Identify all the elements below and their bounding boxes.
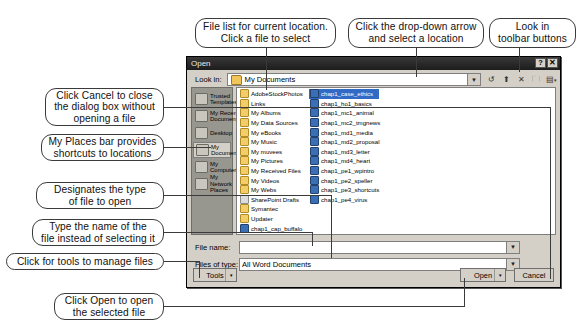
folder-icon (231, 75, 242, 85)
word-icon (310, 108, 319, 117)
open-dialog: Open ? ✕ Look in: My Documents ▼ ↺ ⬆ ✕ 🗀… (186, 56, 561, 288)
file-list-item-label: My Data Sources (251, 119, 298, 126)
file-list-item[interactable]: My Webs (239, 185, 309, 195)
folder-icon (240, 185, 249, 194)
word-icon (310, 128, 319, 137)
leader-dropdown (416, 48, 417, 77)
place-item-label: My Network Places (210, 174, 232, 193)
look-in-row: Look in: My Documents ▼ ↺ ⬆ ✕ 🗀 ▤▾ (187, 70, 560, 87)
close-icon[interactable]: ✕ (547, 58, 558, 68)
word-icon (310, 185, 319, 194)
dialog-body: Trusted TemplatesMy Recent DocumentsDesk… (187, 87, 560, 235)
callout-open: Click Open to open the selected file (54, 293, 164, 320)
file-name-input[interactable]: ▼ (239, 241, 520, 254)
file-list-item[interactable]: Updater (239, 214, 309, 224)
file-list-item[interactable]: chap1_mc2_tmgnews (309, 118, 379, 128)
place-item-4[interactable]: My Computer (193, 159, 231, 175)
tools-button-label: Tools (206, 271, 223, 280)
file-list-item[interactable]: My eBooks (239, 127, 309, 137)
chevron-down-icon[interactable]: ▾ (494, 269, 505, 281)
leader-cancel-h (163, 107, 551, 108)
leader-places-h (163, 147, 211, 148)
file-list-item[interactable]: chap1_case_ethics (309, 89, 379, 99)
file-list-item[interactable]: chap1_pe1_wpintro (309, 166, 379, 176)
file-list-item[interactable]: My Albums (239, 108, 309, 118)
file-list-item-label: Symantec (251, 205, 278, 212)
delete-icon[interactable]: ✕ (515, 74, 527, 86)
network-places-icon (195, 178, 208, 190)
file-list-item[interactable]: My Videos (239, 175, 309, 185)
chevron-down-icon[interactable]: ▼ (467, 74, 480, 85)
help-icon[interactable]: ? (535, 58, 546, 68)
callout-file-list: File list for current location. Click a … (195, 18, 336, 48)
place-item-2[interactable]: Desktop (193, 125, 231, 141)
callout-dropdown: Click the drop-down arrow and select a l… (348, 18, 484, 48)
file-list-item-label: chap1_cap_buffalo (251, 225, 302, 232)
file-list-item[interactable]: My muvees (239, 147, 309, 157)
look-in-combo[interactable]: My Documents ▼ (227, 73, 481, 86)
file-list-item[interactable]: AdobeStockPhotos (239, 89, 309, 99)
file-name-row: File name: ▼ (191, 240, 556, 254)
my-places-bar: Trusted TemplatesMy Recent DocumentsDesk… (191, 87, 233, 235)
callout-filename: Type the name of the file instead of sel… (32, 219, 164, 246)
file-list-item[interactable]: My Pictures (239, 156, 309, 166)
word-icon (310, 156, 319, 165)
callout-tools: Click for tools to manage files (6, 253, 164, 270)
file-list-item-label: My Videos (251, 177, 279, 184)
file-list-item-label: chap1_pe4_virus (321, 196, 367, 203)
file-list-item-label: chap1_md3_letter (321, 148, 370, 155)
open-button[interactable]: Open ▾ (460, 268, 506, 282)
dialog-fields: File name: ▼ Files of type: All Word Doc… (187, 235, 560, 271)
leader-filename-h (163, 232, 312, 233)
word-icon (310, 118, 319, 127)
up-one-level-icon[interactable]: ⬆ (500, 74, 512, 86)
word-icon (310, 147, 319, 156)
folder-icon (240, 204, 249, 213)
file-list-item[interactable]: chap1_md2_proposal (309, 137, 379, 147)
leader-tools-h (163, 261, 199, 262)
file-list-item[interactable]: My Music (239, 137, 309, 147)
trusted-templates-icon (195, 93, 208, 105)
cancel-button[interactable]: Cancel (514, 268, 554, 282)
file-list-item-label: Links (251, 100, 265, 107)
file-list-item[interactable]: Symantec (239, 204, 309, 214)
place-item-5[interactable]: My Network Places (193, 176, 231, 192)
place-item-1[interactable]: My Recent Documents (193, 108, 231, 124)
leader-filetype-h (163, 195, 331, 196)
leader-file-list (266, 48, 267, 90)
file-list-item-label: My Webs (251, 186, 276, 193)
callout-toolbar: Look in toolbar buttons (489, 18, 576, 48)
file-list[interactable]: AdobeStockPhotosLinksMy AlbumsMy Data So… (236, 87, 556, 235)
place-item-3[interactable]: My Documents (193, 142, 231, 158)
file-list-item-label: My Received Files (251, 167, 301, 174)
file-list-item[interactable]: chap1_md1_media (309, 127, 379, 137)
chevron-down-icon[interactable]: ▼ (506, 242, 519, 253)
folder-icon (240, 137, 249, 146)
leader-open-h (163, 306, 465, 307)
leader-toolbar (519, 48, 520, 72)
back-icon[interactable]: ↺ (485, 74, 497, 86)
file-list-item[interactable]: chap1_mc1_animal (309, 108, 379, 118)
sharepoint-icon (240, 195, 249, 204)
folder-icon (240, 128, 249, 137)
views-icon[interactable]: ▤▾ (545, 74, 557, 86)
file-list-item-label: chap1_pe3_shortcuts (321, 186, 379, 193)
file-list-item-label: My Music (251, 138, 277, 145)
word-icon (310, 166, 319, 175)
file-list-item[interactable]: My Data Sources (239, 118, 309, 128)
dialog-toolbar: ↺ ⬆ ✕ 🗀 ▤▾ (485, 74, 557, 86)
file-list-item[interactable]: chap1_md4_heart (309, 156, 379, 166)
leader-open-v (464, 278, 465, 306)
leader-cancel-v (550, 107, 551, 279)
file-list-item[interactable]: chap1_md3_letter (309, 147, 379, 157)
cancel-button-label: Cancel (522, 271, 545, 280)
chevron-down-icon[interactable]: ▾ (225, 269, 236, 281)
new-folder-icon[interactable]: 🗀 (530, 74, 542, 86)
file-list-item[interactable]: My Received Files (239, 166, 309, 176)
file-list-item-label: chap1_md2_proposal (321, 138, 380, 145)
file-list-item-label: chap1_pe2_speller (321, 177, 373, 184)
file-list-item[interactable]: chap1_pe3_shortcuts (309, 185, 379, 195)
place-item-0[interactable]: Trusted Templates (193, 91, 231, 107)
file-list-item[interactable]: chap1_pe2_speller (309, 175, 379, 185)
word-icon (310, 195, 319, 204)
